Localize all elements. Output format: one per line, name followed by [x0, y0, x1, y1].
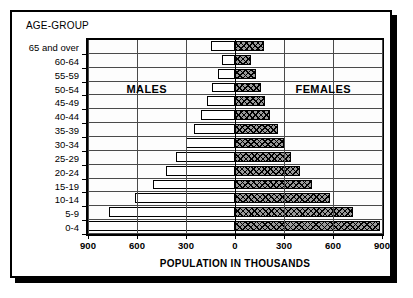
bar-female[interactable] — [235, 221, 380, 231]
bar-female[interactable] — [235, 96, 265, 106]
zero-line — [235, 40, 236, 234]
bar-female[interactable] — [235, 124, 278, 134]
gridline — [382, 40, 383, 234]
y-axis-label-7: 30-34 — [55, 138, 79, 149]
x-axis-tick-label-0: 900 — [80, 240, 96, 251]
x-axis-tick-label-3: 0 — [232, 240, 237, 251]
chart-card: AGE-GROUP 65 and over60-6455-5950-5445-4… — [10, 10, 392, 278]
gridline — [284, 40, 285, 234]
x-axis-tick — [186, 234, 187, 239]
y-axis-label-13: 0-4 — [65, 222, 79, 233]
bar-female[interactable] — [235, 152, 291, 162]
bar-female[interactable] — [235, 41, 264, 51]
y-axis-label-1: 60-64 — [55, 55, 79, 66]
bar-male[interactable] — [176, 152, 235, 162]
bar-male[interactable] — [207, 96, 235, 106]
bar-male[interactable] — [109, 207, 235, 217]
y-axis-label-3: 50-54 — [55, 83, 79, 94]
plot-inner: 65 and over60-6455-5950-5445-4940-4435-3… — [88, 40, 382, 234]
y-axis-label-8: 25-29 — [55, 152, 79, 163]
bar-female[interactable] — [235, 69, 256, 79]
bar-male[interactable] — [186, 138, 235, 148]
bar-male[interactable] — [153, 180, 235, 190]
gridline — [88, 40, 89, 234]
y-axis-label-0: 65 and over — [29, 41, 79, 52]
x-axis-tick-label-2: 300 — [178, 240, 194, 251]
age-group-caption: AGE-GROUP — [26, 20, 89, 31]
y-axis-label-6: 35-39 — [55, 125, 79, 136]
bar-female[interactable] — [235, 138, 284, 148]
y-axis-label-12: 5-9 — [65, 208, 79, 219]
x-axis-tick — [137, 234, 138, 239]
bar-male[interactable] — [218, 69, 235, 79]
x-axis-tick — [284, 234, 285, 239]
bar-male[interactable] — [194, 124, 235, 134]
bar-female[interactable] — [235, 207, 353, 217]
gridline — [333, 40, 334, 234]
y-axis-label-4: 45-49 — [55, 97, 79, 108]
y-axis-label-2: 55-59 — [55, 69, 79, 80]
y-axis-label-9: 20-24 — [55, 166, 79, 177]
series-label-females: FEMALES — [296, 83, 351, 95]
gridline — [186, 40, 187, 234]
x-axis-title: POPULATION IN THOUSANDS — [86, 258, 384, 269]
bar-male[interactable] — [212, 83, 235, 93]
bar-female[interactable] — [235, 55, 251, 65]
x-axis-tick-label-6: 900 — [374, 240, 390, 251]
y-axis-label-10: 15-19 — [55, 180, 79, 191]
x-axis-tick-label-5: 600 — [325, 240, 341, 251]
x-axis-tick — [333, 234, 334, 239]
bar-male[interactable] — [88, 221, 235, 231]
bar-female[interactable] — [235, 193, 330, 203]
bar-female[interactable] — [235, 166, 300, 176]
series-label-males: MALES — [127, 83, 168, 95]
x-axis-tick — [235, 234, 236, 239]
x-axis-tick — [382, 234, 383, 239]
bar-female[interactable] — [235, 83, 261, 93]
bar-female[interactable] — [235, 110, 270, 120]
population-pyramid-plot: 65 and over60-6455-5950-5445-4940-4435-3… — [86, 38, 384, 236]
bar-female[interactable] — [235, 180, 312, 190]
bar-male[interactable] — [211, 41, 235, 51]
x-axis-tick-label-1: 600 — [129, 240, 145, 251]
x-axis-tick-label-4: 300 — [276, 240, 292, 251]
bar-male[interactable] — [201, 110, 235, 120]
x-axis-tick — [88, 234, 89, 239]
y-axis-label-11: 10-14 — [55, 194, 79, 205]
bar-male[interactable] — [166, 166, 235, 176]
bar-male[interactable] — [222, 55, 235, 65]
y-axis-label-5: 40-44 — [55, 111, 79, 122]
gridline — [137, 40, 138, 234]
